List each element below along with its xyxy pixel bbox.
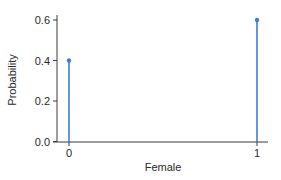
stem-marker (67, 58, 71, 62)
stem-marker (255, 18, 259, 22)
probability-stem-chart: 0.00.20.40.601 Probability Female (0, 0, 281, 180)
y-tick-label: 0.4 (35, 55, 50, 67)
plot-area: 0.00.20.40.601 (35, 14, 268, 159)
x-axis-title: Female (145, 161, 182, 173)
x-tick-label: 1 (254, 147, 260, 159)
x-tick-label: 0 (66, 147, 72, 159)
y-tick-label: 0.0 (35, 136, 50, 148)
y-tick-label: 0.2 (35, 95, 50, 107)
y-axis-title: Probability (6, 54, 18, 106)
y-tick-label: 0.6 (35, 14, 50, 26)
